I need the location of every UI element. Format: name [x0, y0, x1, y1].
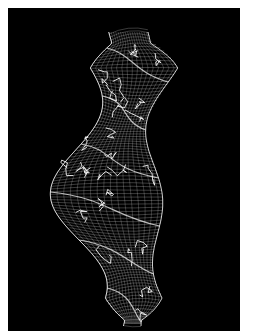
- helix-density-mesh: [8, 8, 240, 331]
- density-map-panel: [8, 8, 240, 331]
